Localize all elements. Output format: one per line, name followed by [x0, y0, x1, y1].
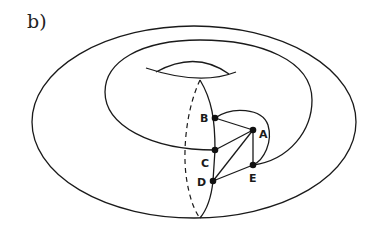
vertex-d [210, 178, 217, 185]
torus-graph-figure: b) A B C D E [0, 0, 371, 225]
vertex-c [212, 147, 219, 154]
torus-outer-ellipse [32, 26, 356, 218]
vertex-label-d: D [197, 176, 206, 189]
vertex-label-b: B [200, 112, 208, 125]
vertex-label-a: A [259, 128, 268, 141]
vertex-label-e: E [249, 172, 257, 185]
edge-c-a [215, 130, 253, 150]
vertex-b [212, 115, 219, 122]
diagram-canvas: A B C D E [0, 0, 371, 225]
vertex-e [250, 162, 257, 169]
spiral-curve [105, 40, 312, 165]
edge-b-a [215, 118, 253, 130]
vertex-label-c: C [201, 157, 209, 170]
hole-upper-arc [156, 61, 229, 74]
vertex-a [250, 127, 257, 134]
